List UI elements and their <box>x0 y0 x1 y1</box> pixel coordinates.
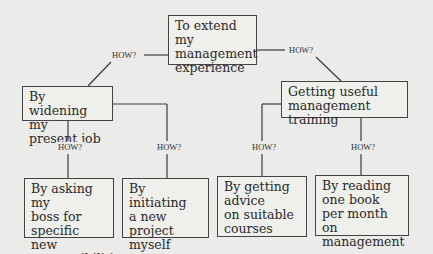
how-label-left-1: HOW? <box>56 142 84 152</box>
how-label-root-left: HOW? <box>110 50 138 60</box>
leaf-node-read-book: By reading one book per month on managem… <box>315 175 409 236</box>
how-label-left-2: HOW? <box>155 142 183 152</box>
how-label-right-2: HOW? <box>349 142 377 152</box>
leaf-node-get-advice: By getting advice on suitable courses <box>217 176 307 237</box>
branch-node-management-training: Getting useful management training <box>281 81 408 118</box>
how-label-root-right: HOW? <box>287 45 315 55</box>
root-node: To extend my management experience <box>168 15 257 65</box>
how-label-right-1: HOW? <box>250 142 278 152</box>
branch-node-widening-job: By widening my present job <box>22 86 113 121</box>
leaf-node-ask-boss: By asking my boss for specific new respo… <box>24 178 114 238</box>
leaf-node-initiate-project: By initiating a new project myself <box>122 178 209 238</box>
